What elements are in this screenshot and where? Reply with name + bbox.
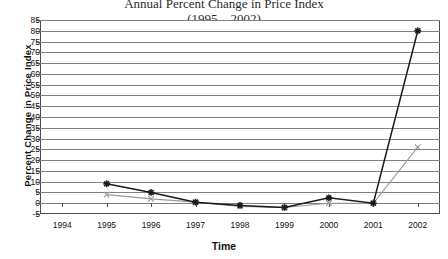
data-point-marker: [370, 200, 377, 207]
x-tick-label: 2002: [395, 220, 441, 230]
y-tick-label: 80: [6, 26, 40, 36]
y-tick-label: -5: [6, 209, 40, 219]
y-tick-label: 10: [6, 177, 40, 187]
y-tick-label: 5: [6, 187, 40, 197]
x-tick-label: 1997: [173, 220, 219, 230]
data-series-layer: [40, 20, 440, 214]
y-tick-label: 25: [6, 144, 40, 154]
y-tick-label: 70: [6, 47, 40, 57]
x-tick-label: 1996: [128, 220, 174, 230]
price-index-line-chart: Annual Percent Change in Price Index (19…: [0, 0, 448, 259]
y-tick-mark: [36, 214, 40, 215]
y-tick-label: 60: [6, 69, 40, 79]
series-series-1: [103, 27, 421, 211]
y-tick-label: 15: [6, 166, 40, 176]
y-tick-label: 30: [6, 134, 40, 144]
series-line: [107, 147, 418, 207]
y-tick-label: 65: [6, 58, 40, 68]
y-tick-label: 35: [6, 123, 40, 133]
data-point-marker: [148, 189, 155, 196]
y-tick-label: 75: [6, 37, 40, 47]
plot-area: [40, 20, 440, 214]
x-tick-label: 2000: [306, 220, 352, 230]
data-point-marker: [192, 199, 199, 206]
y-tick-label: 45: [6, 101, 40, 111]
data-point-marker: [414, 27, 421, 34]
data-point-marker: [415, 144, 420, 149]
x-axis-title: Time: [0, 240, 448, 252]
chart-title-line-1: Annual Percent Change in Price Index: [0, 0, 448, 11]
data-point-marker: [103, 180, 110, 187]
x-tick-label: 1998: [217, 220, 263, 230]
y-tick-label: 20: [6, 155, 40, 165]
y-tick-label: 40: [6, 112, 40, 122]
y-tick-label: 55: [6, 80, 40, 90]
series-line: [107, 31, 418, 208]
x-tick-label: 2001: [350, 220, 396, 230]
data-point-marker: [325, 194, 332, 201]
x-tick-label: 1994: [39, 220, 85, 230]
y-tick-label: 85: [6, 15, 40, 25]
y-tick-label: 0: [6, 198, 40, 208]
x-tick-label: 1999: [261, 220, 307, 230]
data-point-marker: [281, 204, 288, 211]
data-point-marker: [237, 202, 244, 209]
y-tick-label: 50: [6, 90, 40, 100]
x-tick-label: 1995: [84, 220, 130, 230]
y-axis-tick-labels: -50510152025303540455055606570758085: [0, 20, 40, 214]
